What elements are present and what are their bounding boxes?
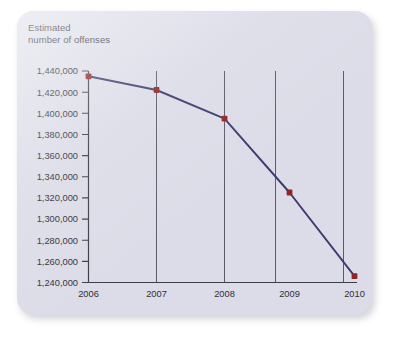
y-tick-label: 1,420,000 <box>37 88 78 98</box>
data-point-marker <box>86 73 92 79</box>
data-series-line <box>89 76 355 276</box>
line-chart-plot: 1,440,000 1,420,000 1,400,000 1,380,000 … <box>17 11 372 315</box>
x-tick-label: 2010 <box>344 289 365 299</box>
vertical-gridlines <box>89 71 344 283</box>
x-tick-label: 2009 <box>279 289 300 299</box>
x-axis-tick-labels: 2006 2007 2008 2009 2010 <box>78 289 365 299</box>
y-tick-label: 1,400,000 <box>37 109 78 119</box>
data-point-marker <box>287 190 293 196</box>
y-tick-label: 1,320,000 <box>37 193 78 203</box>
data-series-markers <box>86 73 358 279</box>
y-tick-label: 1,340,000 <box>37 172 78 182</box>
data-point-marker <box>154 87 160 93</box>
y-axis-ticks <box>82 71 89 283</box>
y-tick-label: 1,440,000 <box>37 66 78 76</box>
x-tick-label: 2006 <box>78 289 99 299</box>
chart-card: Estimated number of offenses <box>17 11 372 315</box>
data-point-marker <box>352 273 358 279</box>
y-tick-label: 1,280,000 <box>37 236 78 246</box>
y-tick-label: 1,380,000 <box>37 130 78 140</box>
y-axis-tick-labels: 1,440,000 1,420,000 1,400,000 1,380,000 … <box>37 66 78 287</box>
y-tick-label: 1,240,000 <box>37 278 78 288</box>
y-tick-label: 1,360,000 <box>37 151 78 161</box>
data-point-marker <box>222 116 228 122</box>
figure-root: Estimated number of offenses <box>0 0 398 338</box>
x-tick-label: 2007 <box>146 289 167 299</box>
y-tick-label: 1,260,000 <box>37 257 78 267</box>
y-tick-label: 1,300,000 <box>37 214 78 224</box>
x-tick-label: 2008 <box>214 289 235 299</box>
